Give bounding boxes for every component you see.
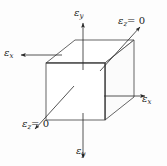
epsilon-value: = 0 xyxy=(127,15,145,26)
epsilon-subscript: y xyxy=(79,12,83,20)
cube-front-face xyxy=(46,63,105,120)
label-epsilon-x-right: εx xyxy=(142,94,151,106)
epsilon-subscript: y xyxy=(81,150,85,158)
epsilon-subscript: x xyxy=(147,98,151,106)
label-epsilon-z-top: εz= 0 xyxy=(118,16,145,28)
epsilon-value: = 0 xyxy=(31,118,49,129)
strain-cube-figure: εy εz= 0 εx εx εz= 0 εy xyxy=(0,0,167,166)
label-epsilon-x-left: εx xyxy=(4,48,13,60)
epsilon-subscript: x xyxy=(9,52,13,60)
label-epsilon-z-bottom: εz= 0 xyxy=(22,119,49,131)
label-epsilon-y-top: εy xyxy=(74,8,83,20)
cube-body xyxy=(46,40,134,120)
label-epsilon-y-bottom: εy xyxy=(76,146,85,158)
